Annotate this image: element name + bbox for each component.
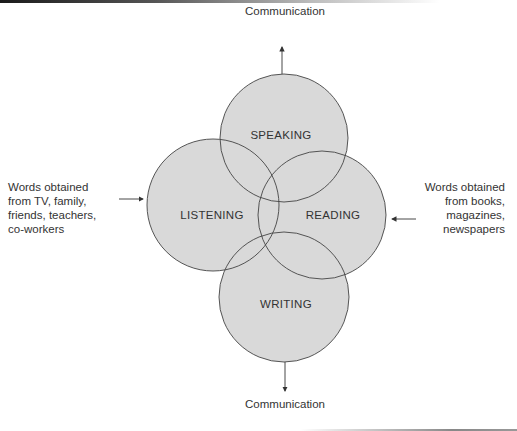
left-input-line: friends, teachers,	[8, 208, 96, 222]
speaking-label: SPEAKING	[250, 129, 311, 141]
right-input-line: from books,	[425, 194, 505, 208]
left-input-text: Words obtained from TV, family, friends,…	[8, 180, 96, 236]
right-input-text: Words obtained from books, magazines, ne…	[425, 180, 505, 236]
right-input-line: magazines,	[425, 208, 505, 222]
left-input-line: co-workers	[8, 222, 96, 236]
writing-label: WRITING	[260, 298, 312, 310]
reading-label: READING	[306, 209, 361, 221]
left-input-line: from TV, family,	[8, 194, 96, 208]
right-input-line: newspapers	[425, 222, 505, 236]
right-input-line: Words obtained	[425, 180, 505, 194]
communication-bottom-label: Communication	[0, 397, 517, 411]
writing-circle-fill	[219, 232, 349, 362]
communication-top-label: Communication	[0, 4, 517, 18]
left-input-line: Words obtained	[8, 180, 96, 194]
listening-label: LISTENING	[180, 209, 243, 221]
